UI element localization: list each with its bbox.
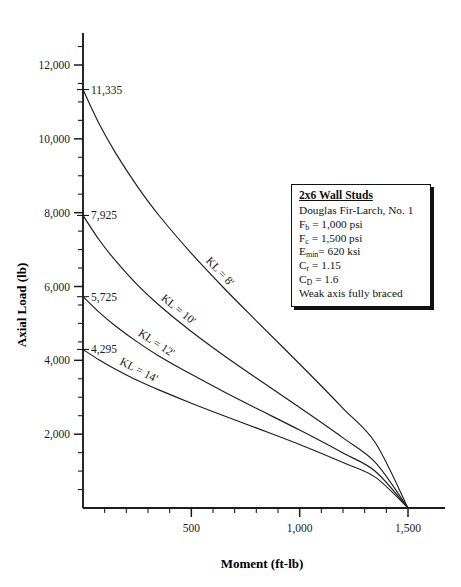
x-tick-label: 1,500 [395, 522, 421, 535]
x-axis-title: Moment (ft-lb) [221, 556, 304, 571]
intercept-label: 7,925 [91, 209, 117, 222]
note-cr: Cr = 1.15 [299, 259, 423, 273]
intercept-label: 4,295 [91, 343, 117, 356]
curve-label-kl-8ft: KL = 8' [204, 254, 237, 288]
cd-subscript: D [307, 278, 313, 287]
y-tick-label: 6,000 [44, 281, 70, 294]
curve-kl-12ft [83, 297, 408, 508]
cd-symbol: C [299, 273, 307, 285]
note-emin: Emin= 620 ksi [299, 245, 423, 259]
emin-subscript: min [306, 250, 318, 259]
y-tick-label: 12,000 [38, 59, 70, 72]
curve-label-kl-14ft: KL = 14' [118, 355, 160, 384]
cr-symbol: C [299, 259, 307, 271]
fc-subscript: c [305, 237, 309, 246]
emin-value: = 620 ksi [318, 245, 360, 257]
x-tick-label: 1,000 [287, 522, 313, 535]
note-fc: Fc = 1,500 psi [299, 232, 423, 246]
note-fb: Fb = 1,000 psi [299, 218, 423, 232]
y-tick-label: 4,000 [44, 354, 70, 367]
fc-value: = 1,500 psi [312, 232, 363, 244]
note-bracing: Weak axis fully braced [299, 287, 423, 301]
y-tick-label: 10,000 [38, 133, 70, 146]
note-box: 2x6 Wall Studs Douglas Fir-Larch, No. 1 … [291, 184, 431, 307]
x-tick-label: 500 [183, 522, 201, 534]
cr-subscript: r [307, 264, 310, 273]
note-cd: CD = 1.6 [299, 273, 423, 287]
note-species: Douglas Fir-Larch, No. 1 [299, 204, 423, 218]
intercept-label: 11,335 [91, 84, 122, 97]
y-tick-label: 8,000 [44, 207, 70, 220]
curve-kl-14ft [83, 349, 408, 508]
emin-symbol: E [299, 245, 306, 257]
fb-subscript: b [305, 223, 309, 232]
intercept-label: 5,725 [91, 291, 117, 304]
fb-value: = 1,000 psi [312, 218, 363, 230]
note-title: 2x6 Wall Studs [299, 189, 423, 203]
cr-value: = 1.15 [312, 259, 341, 271]
y-axis-title: Axial Load (lb) [14, 263, 29, 348]
cd-value: = 1.6 [315, 273, 338, 285]
axial-load-moment-chart: 2,0004,0006,0008,00010,00012,0005001,000… [0, 0, 461, 587]
y-tick-label: 2,000 [44, 428, 70, 441]
